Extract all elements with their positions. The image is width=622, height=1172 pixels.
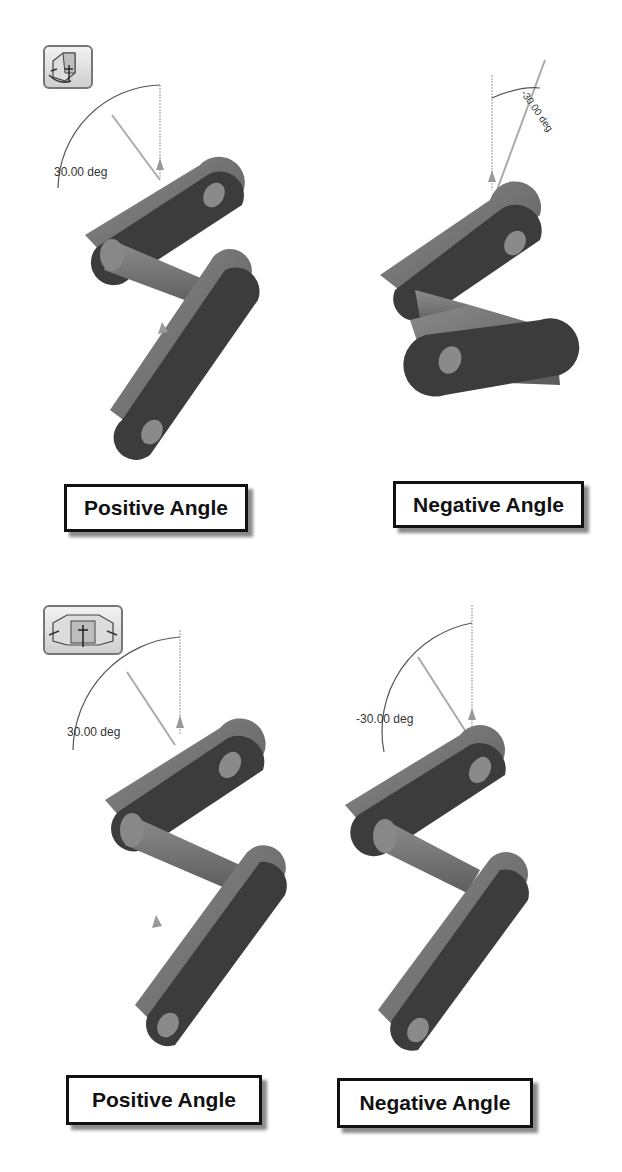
panel-bottom-right-geometry xyxy=(345,605,529,1051)
angle-label-bottom-left: 30.00 deg xyxy=(67,725,120,739)
angle-label-bottom-right: -30.00 deg xyxy=(356,712,413,726)
caption-positive-angle-bottom: Positive Angle xyxy=(66,1075,262,1125)
panel-top-right-geometry xyxy=(380,60,579,397)
caption-negative-angle-top: Negative Angle xyxy=(393,481,584,528)
angle-label-top-left: 30.00 deg xyxy=(54,165,107,179)
caption-positive-angle-top: Positive Angle xyxy=(64,484,248,532)
panel-bottom-left-geometry xyxy=(73,630,287,1046)
caption-negative-angle-bottom: Negative Angle xyxy=(337,1078,533,1128)
panel-top-left-geometry xyxy=(58,85,260,460)
